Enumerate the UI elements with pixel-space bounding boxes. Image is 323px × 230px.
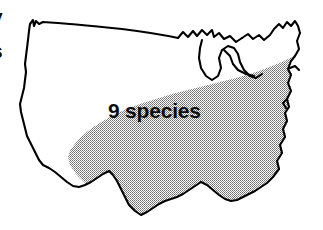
species-count-label: 9 species bbox=[108, 99, 201, 123]
distribution-map-figure: y s . , . 9 species bbox=[0, 0, 323, 230]
